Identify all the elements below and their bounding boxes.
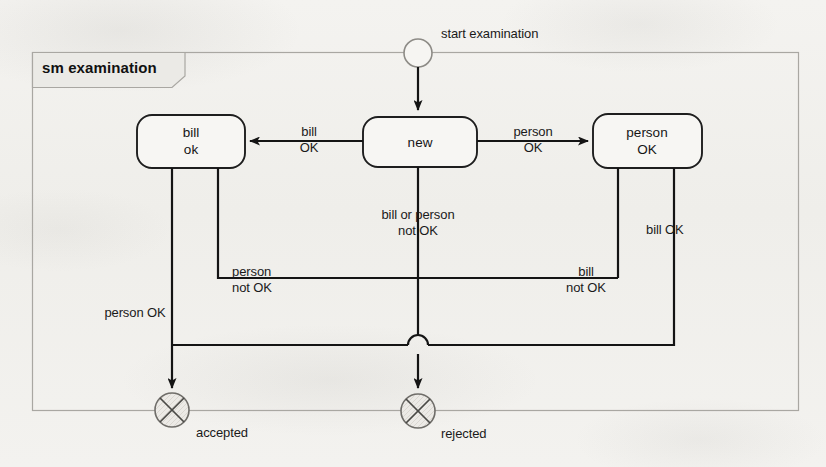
initial-pseudostate-label: start examination xyxy=(441,26,538,41)
state-bill-ok-label-line2: ok xyxy=(183,141,200,158)
transition-label-new-to-rejected-line2: not OK xyxy=(398,223,438,238)
transition-label-bill-ok-to-rejected-line1: person xyxy=(232,264,271,279)
state-bill-ok-label-line1: bill xyxy=(183,124,200,141)
transition-label-new-to-bill-ok-line1: bill xyxy=(301,124,317,139)
terminate-rejected-label: rejected xyxy=(441,426,486,441)
state-bill-ok-label: bill ok xyxy=(183,124,200,158)
uml-state-machine-diagram: sm examination bill ok new person OK sta… xyxy=(0,0,826,467)
state-new-label-line1: new xyxy=(408,134,433,151)
terminate-accepted-icon[interactable] xyxy=(155,393,189,427)
state-person-ok-label-line2: OK xyxy=(626,141,667,158)
transition-label-new-to-rejected-line1: bill or person xyxy=(381,207,454,222)
transition-person-ok-to-accepted xyxy=(428,168,674,345)
transition-label-person-ok-to-accepted: bill OK xyxy=(646,222,684,237)
terminate-rejected-icon[interactable] xyxy=(401,394,435,428)
transition-label-person-ok-to-rejected-line2: not OK xyxy=(566,280,606,295)
initial-pseudostate-icon[interactable] xyxy=(404,39,432,67)
transition-label-bill-ok-to-rejected-line2: not OK xyxy=(232,280,272,295)
transition-label-person-ok-to-rejected-line1: bill xyxy=(578,264,594,279)
transition-label-new-to-person-ok-line2: OK xyxy=(524,140,543,155)
state-person-ok-label-line1: person xyxy=(626,124,667,141)
line-hop-arc xyxy=(408,335,428,345)
frame-title: sm examination xyxy=(42,59,157,76)
transition-label-new-to-bill-ok-line2: OK xyxy=(300,140,319,155)
transition-label-bill-ok-to-accepted: person OK xyxy=(104,305,165,320)
transition-label-new-to-person-ok-line1: person xyxy=(513,124,552,139)
state-person-ok-label: person OK xyxy=(626,124,667,158)
terminate-accepted-label: accepted xyxy=(196,425,248,440)
state-new-label: new xyxy=(408,134,433,151)
